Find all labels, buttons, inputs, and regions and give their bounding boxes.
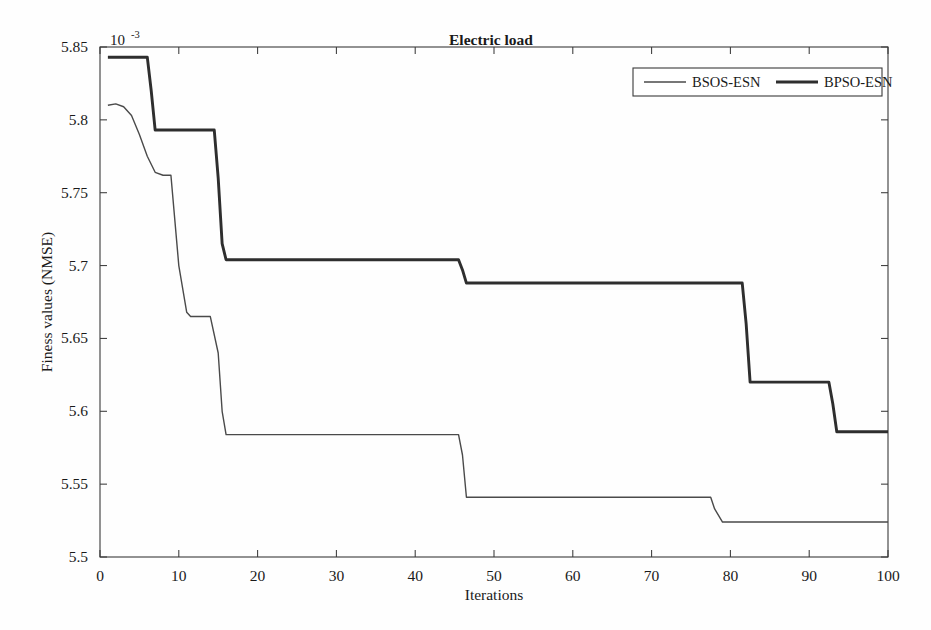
x-tick-label: 20 — [250, 567, 266, 584]
legend-label-bsos-esn[interactable]: BSOS-ESN — [692, 74, 761, 90]
x-tick-label: 60 — [565, 567, 581, 584]
x-tick-label: 90 — [801, 567, 817, 584]
x-tick-label: 70 — [644, 567, 660, 584]
x-tick-label: 30 — [329, 567, 345, 584]
series-layer — [108, 57, 888, 522]
y-tick-label: 5.65 — [61, 329, 88, 346]
y-tick-label: 5.5 — [69, 548, 89, 565]
y-axis-exponent-power: -3 — [131, 29, 140, 40]
x-tick-label: 50 — [486, 567, 502, 584]
legend-label-bpso-esn[interactable]: BPSO-ESN — [824, 74, 893, 90]
figure-container: Electric load 10 -3 01020304050607080901… — [0, 0, 931, 630]
plot-frame — [100, 47, 888, 557]
line-chart: Electric load 10 -3 01020304050607080901… — [0, 0, 931, 630]
y-tick-label: 5.85 — [61, 38, 88, 55]
x-tick-label: 0 — [96, 567, 104, 584]
series-line-bsos-esn — [108, 104, 888, 522]
y-tick-label: 5.6 — [69, 402, 89, 419]
x-tick-label: 10 — [171, 567, 187, 584]
x-tick-label: 100 — [876, 567, 900, 584]
x-tick-label: 40 — [407, 567, 423, 584]
y-axis-exponent-base: 10 — [110, 32, 125, 48]
y-tick-label: 5.8 — [69, 111, 89, 128]
y-tick-label: 5.7 — [69, 257, 89, 274]
y-tick-label: 5.55 — [61, 475, 88, 492]
x-axis-title: Iterations — [465, 586, 524, 603]
x-tick-label: 80 — [723, 567, 739, 584]
y-tick-label: 5.75 — [61, 184, 88, 201]
x-axis-ticks: 0102030405060708090100 — [96, 47, 900, 584]
series-line-bpso-esn — [108, 57, 888, 431]
y-axis-title: Finess values (NMSE) — [38, 232, 56, 372]
chart-title: Electric load — [449, 31, 533, 48]
legend[interactable]: BSOS-ESN BPSO-ESN — [633, 68, 893, 96]
